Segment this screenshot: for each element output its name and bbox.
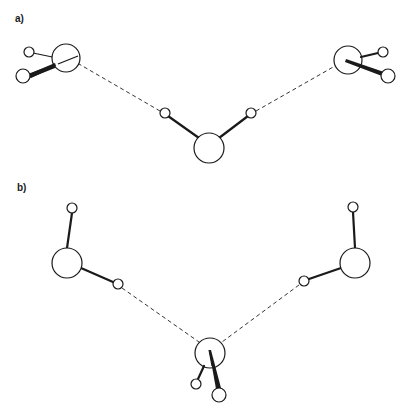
hydrogen-atom: [348, 202, 358, 212]
hydrogen-atom: [113, 279, 123, 289]
molecule-b-right-donor: [299, 202, 370, 286]
hydrogen-bond-b-left: [122, 288, 199, 342]
water-hydrogen-bond-diagram: [0, 0, 405, 414]
hydrogen-bond-a-right: [256, 66, 335, 111]
oh-bond: [168, 116, 199, 138]
oh-bond: [67, 213, 72, 248]
molecule-a-left-acceptor: [16, 44, 80, 83]
molecule-b-left-donor: [52, 203, 123, 289]
oxygen-atom: [340, 248, 370, 278]
molecule-a-right-acceptor: [334, 46, 395, 83]
oh-bond: [219, 116, 248, 138]
hydrogen-bond-a-left: [79, 64, 160, 111]
panel-b: [52, 202, 370, 402]
hydrogen-atom: [160, 108, 170, 118]
oh-bond: [361, 53, 378, 57]
oh-bond: [198, 366, 204, 379]
hydrogen-bond-b-right: [222, 285, 299, 342]
molecule-b-central-acceptor: [191, 338, 226, 402]
oxygen-atom: [52, 248, 82, 278]
hydrogen-atom: [212, 388, 226, 402]
oh-bond: [81, 268, 113, 282]
hydrogen-atom: [191, 379, 201, 389]
oxygen-atom: [52, 44, 80, 72]
hydrogen-atom: [299, 276, 309, 286]
hydrogen-atom: [16, 69, 30, 83]
oxygen-atom: [194, 133, 224, 163]
hydrogen-atom: [246, 108, 256, 118]
oh-wedge-front: [29, 63, 56, 78]
oh-bond: [353, 212, 355, 248]
hydrogen-atom: [67, 203, 77, 213]
molecule-a-central-donor: [160, 108, 256, 163]
hydrogen-atom: [381, 69, 395, 83]
hydrogen-atom: [378, 47, 388, 57]
oh-bond: [309, 268, 341, 279]
panel-a: [16, 44, 395, 163]
hydrogen-atom: [24, 47, 34, 57]
